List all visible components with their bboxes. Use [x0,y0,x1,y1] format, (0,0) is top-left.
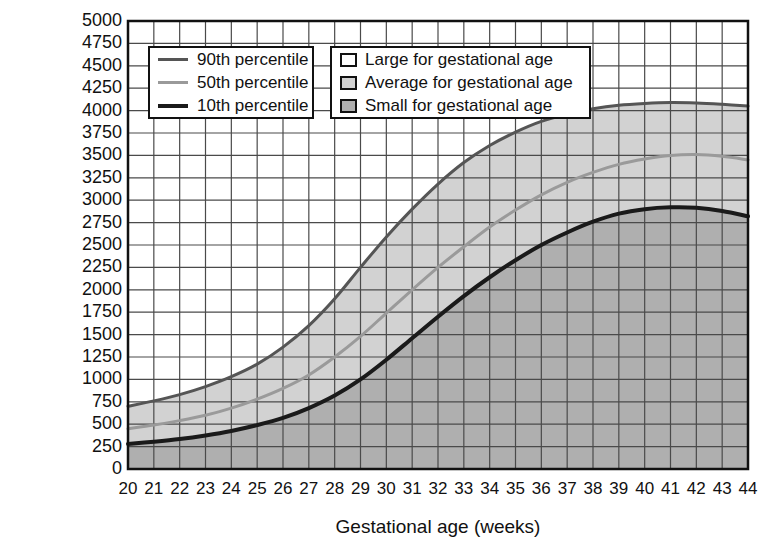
legend-shade-swatch-icon [340,53,357,67]
legend-percentile-lines: 90th percentile50th percentile10th perce… [148,46,314,119]
legend-line-swatch-icon [158,104,188,108]
legend-shade-label: Large for gestational age [365,50,553,70]
legend-shade-label: Average for gestational age [365,73,573,93]
birth-weight-percentile-chart: Birth weight (g) 02505007501000125015001… [0,0,781,546]
legend-shade-swatch-icon [340,76,357,90]
legend-line-item: 90th percentile [150,48,312,71]
legend-line-label: 10th percentile [197,96,309,116]
legend-line-swatch-icon [158,58,188,61]
x-axis-tick-labels: 2021222324252627282930313233343536373839… [128,478,748,502]
legend-shade-item: Small for gestational age [332,94,589,117]
legend-line-item: 10th percentile [150,94,312,117]
legend-line-label: 50th percentile [197,73,309,93]
legend-shade-label: Small for gestational age [365,96,552,116]
legend-line-label: 90th percentile [197,50,309,70]
legend-shade-item: Large for gestational age [332,48,589,71]
legend-gestational-age-categories: Large for gestational ageAverage for ges… [330,46,591,119]
legend-shade-item: Average for gestational age [332,71,589,94]
legend-line-item: 50th percentile [150,71,312,94]
legend-line-swatch-icon [158,81,188,84]
x-tick-label: 44 [733,478,763,500]
legend-shade-swatch-icon [340,99,357,113]
x-axis-title: Gestational age (weeks) [128,516,748,538]
